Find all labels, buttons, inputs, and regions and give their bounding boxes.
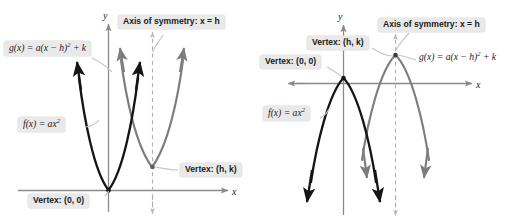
- left-vertex-hk-dot: [150, 165, 155, 170]
- left-y-axis-label: y: [102, 10, 108, 21]
- left-leader-f-formula: [86, 120, 99, 127]
- right-leader-g-formula: [398, 55, 416, 60]
- right-leader-vertex-hk: [372, 48, 393, 56]
- left-x-axis-label: x: [231, 186, 237, 197]
- right-leader-vertex-origin: [327, 67, 342, 77]
- right-y-axis-label: y: [337, 11, 343, 22]
- right-curve-f-arrowhead-left: [307, 170, 312, 202]
- right-curve-g-arrowhead-left: [363, 148, 367, 178]
- figure-canvas: x y: [0, 0, 517, 222]
- right-panel-plot: x y: [288, 11, 481, 216]
- parabola-transformation-figure: x y: [0, 0, 517, 222]
- left-panel-plot: x y: [0, 0, 237, 214]
- right-leader-axis-of-symmetry: [396, 33, 409, 50]
- left-leader-vertex-hk: [155, 167, 178, 170]
- right-vertex-hk-dot: [393, 53, 398, 58]
- right-curve-g-arrowhead-right: [424, 148, 428, 178]
- left-leader-axis-of-symmetry: [153, 35, 164, 52]
- right-x-axis-label: x: [475, 79, 481, 90]
- right-curve-f-arrowhead-right: [375, 170, 380, 202]
